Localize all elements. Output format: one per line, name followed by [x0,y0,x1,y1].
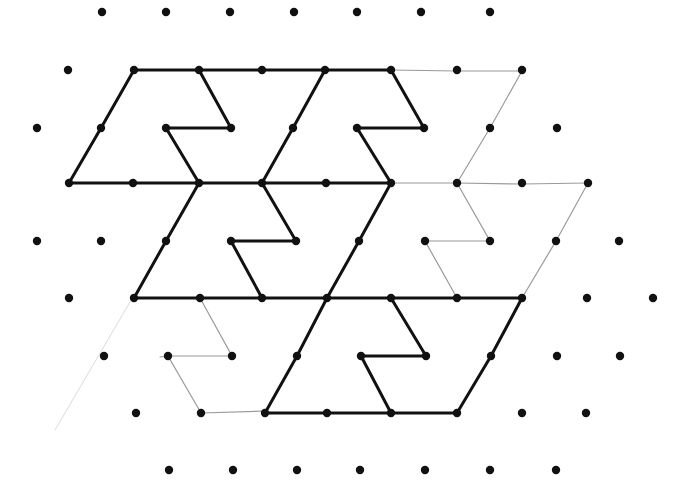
grid-dot [130,294,138,302]
grid-dot [356,466,364,474]
grid-dot [97,124,105,132]
grid-dot [65,294,73,302]
tile2-notch [357,70,424,183]
grid-dot [353,8,361,16]
grid-dot [453,409,461,417]
grid-dot [649,294,657,302]
pencil-middle-extension [391,183,588,184]
grid-dot [100,352,108,360]
grid-dot [353,124,361,132]
grid-dot [387,66,395,74]
grid-dot [97,237,105,245]
pencil-notch-right [425,183,490,298]
grid-dot [33,237,41,245]
grid-dot [258,179,266,187]
grid-dot [553,124,561,132]
grid-dot [486,466,494,474]
grid-dot [227,124,235,132]
grid-dot [293,352,301,360]
grid-dot [130,66,138,74]
pencil-lower-left-notch [168,298,265,413]
grid-dot [387,294,395,302]
grid-dot [289,124,297,132]
grid-dot [486,124,494,132]
grid-dot [323,409,331,417]
grid-dot [422,352,430,360]
grid-dot [321,66,329,74]
grid-dot [453,66,461,74]
grid-dot [387,409,395,417]
grid-dot [290,8,298,16]
grid-dot [64,66,72,74]
grid-dot [421,237,429,245]
grid-dot [417,8,425,16]
dot-grid-diagram [0,0,695,501]
grid-dots [33,8,657,474]
grid-dot [486,8,494,16]
grid-dot [387,179,395,187]
grid-dot [228,352,236,360]
grid-dot [583,294,591,302]
grid-dot [162,124,170,132]
grid-dot [195,179,203,187]
tile1-notch [166,70,231,183]
grid-dot [420,124,428,132]
grid-dot [227,237,235,245]
grid-dot [197,409,205,417]
grid-dot [162,8,170,16]
grid-dot [355,237,363,245]
faint-guide-lines [55,302,130,430]
grid-dot [292,237,300,245]
grid-dot [162,237,170,245]
grid-dot [553,352,561,360]
grid-dot [196,294,204,302]
grid-dot [518,66,526,74]
grid-dot [518,294,526,302]
grid-dot [258,294,266,302]
grid-dot [582,409,590,417]
grid-dot [65,179,73,187]
grid-dot [323,294,331,302]
grid-dot [518,179,526,187]
grid-dot [616,352,624,360]
grid-dot [33,124,41,132]
grid-dot [453,294,461,302]
grid-dot [98,8,106,16]
grid-dot [453,179,461,187]
grid-dot [421,466,429,474]
grid-dot [322,179,330,187]
grid-dot [518,409,526,417]
grid-dot [552,466,560,474]
faint-diagonal-left [55,302,130,430]
grid-dot [258,66,266,74]
grid-dot [486,237,494,245]
grid-dot [584,179,592,187]
pencil-tile-outlines [160,70,588,413]
grid-dot [195,66,203,74]
grid-dot [129,179,137,187]
grid-dot [132,409,140,417]
tile3-notch [231,183,296,298]
grid-dot [164,352,172,360]
grid-dot [552,237,560,245]
grid-dot [293,466,301,474]
grid-dot [487,352,495,360]
tessellation-drawing [0,0,695,501]
grid-dot [165,466,173,474]
grid-dot [261,409,269,417]
grid-dot [229,466,237,474]
tile5-notch [361,298,426,413]
grid-dot [357,352,365,360]
grid-dot [615,237,623,245]
grid-dot [226,8,234,16]
